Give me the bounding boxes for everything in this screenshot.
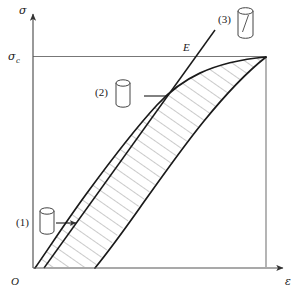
stress-strain-figure: σ σ c O ε E (1) (2) (3) — [0, 0, 299, 292]
callout-1-label: (1) — [16, 216, 29, 229]
tangent-modulus-line — [44, 30, 215, 268]
callout-2-label: (2) — [95, 86, 108, 99]
callout-2-group: (2) — [95, 80, 166, 107]
callout-3-group: (3) — [218, 8, 253, 39]
callout-3-label: (3) — [218, 13, 231, 26]
x-axis-label: ε — [285, 275, 291, 288]
specimen-cylinder-3 — [238, 8, 253, 39]
figure-canvas: σ σ c O ε E (1) (2) (3) — [0, 0, 299, 292]
origin-label: O — [11, 275, 19, 287]
sigma-c-subscript: c — [16, 57, 20, 65]
specimen-cylinder-2 — [116, 80, 130, 107]
y-axis-label: σ — [19, 4, 27, 17]
specimen-cylinder-1 — [40, 208, 54, 234]
sigma-c-label: σ — [8, 50, 16, 63]
modulus-label: E — [182, 41, 190, 53]
